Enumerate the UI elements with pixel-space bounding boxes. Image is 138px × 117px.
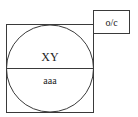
corner-box-label: o/c bbox=[105, 17, 118, 28]
circle-bottom-label: aaa bbox=[43, 75, 57, 86]
diagram-canvas: XY aaa o/c bbox=[0, 0, 138, 117]
circle-top-label: XY bbox=[41, 50, 59, 64]
